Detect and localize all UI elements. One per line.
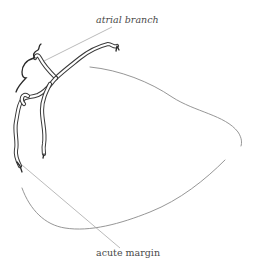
heart-outline bbox=[22, 67, 242, 229]
atrial-branch-label: atrial branch bbox=[96, 14, 159, 25]
coronary-vessels bbox=[15, 44, 119, 172]
coronary-artery-diagram bbox=[0, 0, 255, 266]
acute-margin-leader bbox=[22, 165, 120, 248]
acute-margin-label: acute margin bbox=[96, 247, 160, 258]
